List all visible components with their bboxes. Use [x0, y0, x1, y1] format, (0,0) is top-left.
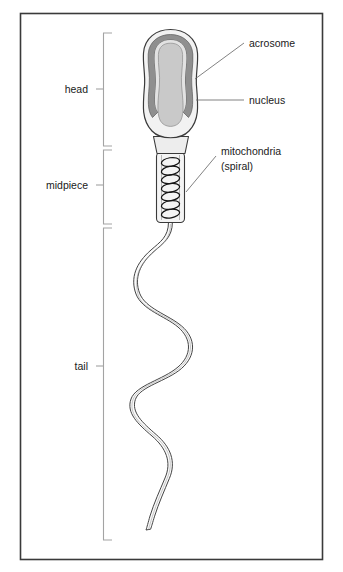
neck-collar — [154, 137, 189, 154]
callout-label-acrosome: acrosome — [249, 37, 295, 49]
midpiece-structure — [154, 137, 189, 223]
region-label-midpiece: midpiece — [46, 179, 88, 191]
callout-label-mitochondria: mitochondria — [221, 145, 281, 157]
nucleus — [158, 43, 183, 126]
callout-label-nucleus: nucleus — [249, 94, 285, 106]
head-structure — [143, 30, 197, 138]
region-label-tail: tail — [75, 360, 88, 372]
region-label-head: head — [65, 83, 89, 95]
midpiece-cylinder — [157, 153, 185, 223]
callout-label-mitochondria-sub: (spiral) — [221, 160, 253, 172]
sperm-cell-figure: head midpiece tail acrosome nucleus mito… — [0, 0, 343, 572]
sperm-diagram-canvas: head midpiece tail acrosome nucleus mito… — [0, 0, 343, 572]
